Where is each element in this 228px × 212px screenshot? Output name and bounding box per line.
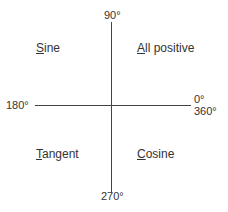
quadrant-cosine: Cosine (137, 148, 174, 160)
horizontal-axis (35, 105, 191, 106)
quadrant-sine: Sine (36, 42, 60, 54)
label-360: 360° (194, 105, 217, 117)
label-270: 270° (101, 190, 124, 202)
quadrant-tangent: Tangent (36, 148, 79, 160)
label-90: 90° (104, 9, 121, 21)
vertical-axis (111, 22, 112, 192)
quadrant-all-positive: All positive (137, 42, 194, 54)
label-180: 180° (6, 99, 29, 111)
label-0: 0° (194, 93, 205, 105)
